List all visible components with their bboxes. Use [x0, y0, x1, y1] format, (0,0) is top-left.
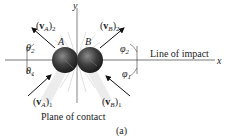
vB2-label: (vB)2 — [100, 21, 119, 33]
plane-of-contact-label: Plane of contact — [41, 112, 105, 122]
x-axis-label: x — [217, 56, 221, 66]
line-of-impact-label: Line of impact — [150, 49, 209, 59]
vA2-label: (vA)2 — [36, 21, 55, 33]
theta2-label: θ2 — [26, 43, 34, 55]
caption: (a) — [116, 126, 127, 136]
theta1-label: θ1 — [26, 66, 34, 78]
vB1-label: (vB)1 — [102, 97, 121, 109]
vA1-label: (vA)1 — [33, 97, 52, 109]
sphere-b-label: B — [85, 37, 91, 47]
y-axis-label: y — [73, 1, 77, 11]
sphere-a-label: A — [58, 37, 64, 47]
phi2-label: φ2 — [120, 44, 129, 56]
phi1-label: φ1 — [122, 69, 131, 81]
